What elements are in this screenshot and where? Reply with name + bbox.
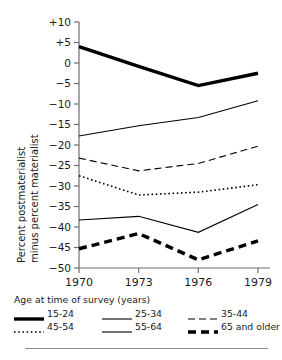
y-tick-label: +10 — [49, 16, 71, 28]
x-tick-label: 1979 — [244, 276, 272, 289]
y-tick-label: −40 — [49, 221, 71, 233]
y-tick-label: −5 — [56, 77, 71, 89]
series-line-65-and-older — [79, 234, 258, 260]
y-tick-label: −50 — [49, 262, 71, 274]
series-line-45-54 — [79, 176, 258, 195]
y-tick-label: −20 — [49, 139, 71, 151]
y-tick-label: −15 — [49, 118, 71, 130]
chart-figure: Percent postmaterialist minus percent ma… — [0, 0, 282, 360]
legend-item-15-24: 15-24 — [14, 309, 102, 319]
x-tick-label: 1973 — [125, 276, 153, 289]
footer-rule — [25, 348, 268, 349]
line-chart-plot: +10+50−5−10−15−20−25−30−35−40−45−5019701… — [0, 0, 282, 292]
series-line-15-24 — [79, 47, 258, 86]
y-tick-label: −25 — [49, 159, 71, 171]
legend-label-65-and-older: 65 and older — [221, 322, 280, 332]
y-tick-label: −35 — [49, 200, 71, 212]
legend-label-15-24: 15-24 — [47, 309, 74, 319]
x-tick-label: 1970 — [65, 276, 93, 289]
series-line-25-34 — [79, 101, 258, 136]
series-line-35-44 — [79, 146, 258, 171]
legend-item-65-and-older: 65 and older — [188, 322, 272, 332]
legend-title: Age at time of survey (years) — [14, 294, 272, 305]
legend-label-45-54: 45-54 — [47, 322, 74, 332]
y-tick-label: 0 — [64, 57, 71, 69]
y-tick-label: −10 — [49, 98, 71, 110]
legend-swatch-thick-dashed-icon — [188, 322, 218, 332]
series-line-55-64 — [79, 204, 258, 232]
legend-label-25-34: 25-34 — [135, 309, 162, 319]
legend-item-55-64: 55-64 — [102, 322, 188, 332]
chart-legend: Age at time of survey (years) 15-24 25-3… — [14, 294, 272, 333]
legend-row-2: 45-54 55-64 65 and older — [14, 320, 272, 333]
legend-swatch-thick-solid-icon — [14, 309, 44, 319]
legend-item-45-54: 45-54 — [14, 322, 102, 332]
legend-item-25-34: 25-34 — [102, 309, 188, 319]
legend-swatch-dotted-icon — [14, 322, 44, 332]
legend-row-1: 15-24 25-34 35-44 — [14, 307, 272, 320]
legend-item-35-44: 35-44 — [188, 309, 272, 319]
legend-swatch-thin-solid-2-icon — [102, 322, 132, 332]
legend-swatch-thin-dashed-icon — [188, 309, 218, 319]
y-tick-label: +5 — [56, 36, 71, 48]
legend-label-35-44: 35-44 — [221, 309, 248, 319]
legend-label-55-64: 55-64 — [135, 322, 162, 332]
y-tick-label: −30 — [49, 180, 71, 192]
legend-swatch-thin-solid-icon — [102, 309, 132, 319]
x-tick-label: 1976 — [184, 276, 212, 289]
y-tick-label: −45 — [49, 241, 71, 253]
